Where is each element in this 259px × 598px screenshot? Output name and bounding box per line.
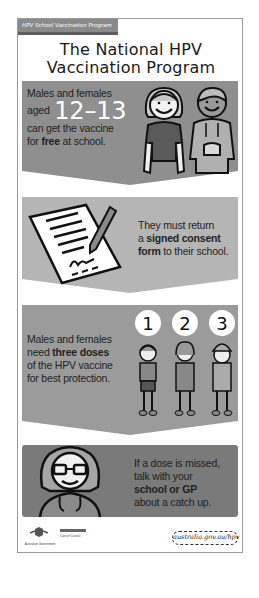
panel-missed-dose: If a dose is missed, talk with your scho… xyxy=(22,445,238,517)
three-children-icon: 1 2 3 xyxy=(132,307,238,429)
text-line: for free at school. xyxy=(27,135,137,148)
page-title: The National HPV Vaccination Program xyxy=(18,41,244,77)
text-line: need three doses xyxy=(27,346,132,359)
text-emphasis: form xyxy=(138,245,161,257)
text-line: Males and females xyxy=(27,333,132,346)
text-emphasis: signed consent xyxy=(146,232,220,244)
doctor-with-stethoscope-icon xyxy=(30,443,120,517)
signed-form-with-pen-icon xyxy=(26,201,126,287)
panel-2-text: They must return a signed consent form t… xyxy=(138,219,238,258)
text-fragment: for xyxy=(27,135,41,147)
text-line: a signed consent xyxy=(138,232,238,245)
text-fragment: at school. xyxy=(60,135,106,147)
text-line: aged 12–13 xyxy=(27,100,137,122)
text-line: form to their school. xyxy=(138,245,238,258)
panel-1-text: Males and females aged 12–13 can get the… xyxy=(27,87,137,148)
text-emphasis: free xyxy=(41,135,59,147)
text-line: They must return xyxy=(138,219,238,232)
text-line: talk with your xyxy=(134,470,238,483)
hpv-infographic-poster: HPV School Vaccination Program The Natio… xyxy=(17,18,243,553)
text-line: If a dose is missed, xyxy=(134,457,238,470)
panel-consent-form: They must return a signed consent form t… xyxy=(22,197,238,293)
text-line: about a catch up. xyxy=(134,496,238,509)
footer: Australian Government Cancer Council aus… xyxy=(18,519,244,554)
partner-label: Cancer Council xyxy=(60,534,90,538)
text-fragment: need xyxy=(27,346,52,358)
title-line-2: Vaccination Program xyxy=(18,59,244,77)
text-line: school or GP xyxy=(134,483,238,496)
text-emphasis: school or GP xyxy=(134,483,197,495)
text-emphasis: three doses xyxy=(52,346,109,358)
panel-3-text: Males and females need three doses of th… xyxy=(27,333,132,385)
partner-logo-bar xyxy=(60,529,86,532)
text-line: of the HPV vaccine xyxy=(27,359,132,372)
age-range: 12–13 xyxy=(54,100,126,122)
title-line-1: The National HPV xyxy=(18,41,244,59)
website-link[interactable]: australia.gov.au/hpv xyxy=(172,531,238,545)
gov-label: Australian Government xyxy=(24,542,56,546)
girl-and-boy-icon xyxy=(134,83,238,183)
svg-text:2: 2 xyxy=(179,313,190,334)
svg-text:1: 1 xyxy=(142,313,153,334)
svg-text:3: 3 xyxy=(216,313,227,334)
panel-three-doses: Males and females need three doses of th… xyxy=(22,305,238,435)
text-fragment: aged xyxy=(27,104,50,116)
panel-age-eligibility: Males and females aged 12–13 can get the… xyxy=(22,81,238,185)
text-line: for best protection. xyxy=(27,372,132,385)
coat-of-arms-icon xyxy=(28,527,50,541)
text-fragment: to their school. xyxy=(161,245,229,257)
panel-4-text: If a dose is missed, talk with your scho… xyxy=(134,457,238,509)
program-tag: HPV School Vaccination Program xyxy=(18,19,118,32)
